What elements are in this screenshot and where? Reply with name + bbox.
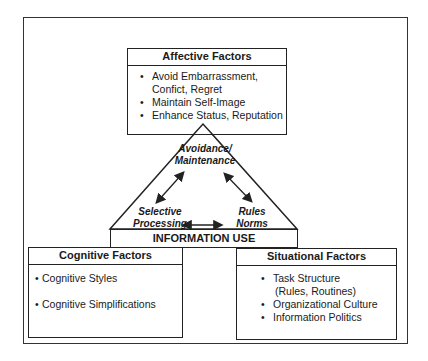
cognitive-list: Cognitive Styles Cognitive Simplificatio… (35, 272, 182, 311)
label-line: Rules (232, 206, 272, 218)
cognitive-factors-box: Cognitive Factors Cognitive Styles Cogni… (28, 247, 183, 338)
information-use-box: INFORMATION USE (110, 229, 298, 248)
list-item: Organizational Culture (261, 298, 396, 311)
list-item-continuation: (Rules, Routines) (261, 285, 396, 298)
cognitive-title: Cognitive Factors (29, 248, 182, 265)
label-avoidance-maintenance: Avoidance/ Maintenance (168, 143, 242, 167)
list-item: Cognitive Styles (35, 272, 182, 285)
list-item: Task Structure (261, 272, 396, 285)
label-line: Selective (130, 206, 190, 218)
situational-factors-box: Situational Factors Task Structure (Rule… (236, 248, 397, 340)
label-line: Maintenance (168, 155, 242, 167)
label-line: Avoidance/ (168, 143, 242, 155)
situational-list: Task Structure (Rules, Routines) Organiz… (261, 272, 396, 324)
list-item: Information Politics (261, 311, 396, 324)
label-selective-processing: Selective Processing (130, 206, 190, 230)
label-rules-norms: Rules Norms (232, 206, 272, 230)
situational-title: Situational Factors (237, 249, 396, 266)
list-item: Cognitive Simplifications (35, 298, 182, 311)
